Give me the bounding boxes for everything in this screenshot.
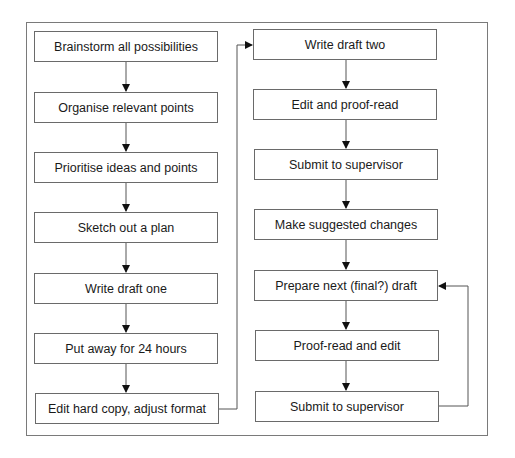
step-make-changes: Make suggested changes	[254, 209, 438, 240]
step-label: Put away for 24 hours	[65, 342, 187, 356]
step-label: Prioritise ideas and points	[54, 161, 197, 175]
step-sketch-plan: Sketch out a plan	[34, 212, 218, 243]
step-submit-supervisor-1: Submit to supervisor	[254, 149, 438, 180]
step-brainstorm: Brainstorm all possibilities	[34, 31, 218, 62]
step-label: Write draft two	[305, 38, 385, 52]
step-edit-proof-read: Edit and proof-read	[253, 89, 437, 120]
step-label: Prepare next (final?) draft	[275, 279, 417, 293]
step-label: Make suggested changes	[275, 218, 417, 232]
arrow-L7-R1	[218, 45, 252, 409]
step-edit-hard-copy: Edit hard copy, adjust format	[35, 393, 219, 424]
step-label: Edit and proof-read	[291, 98, 398, 112]
step-prioritise: Prioritise ideas and points	[34, 152, 218, 183]
step-put-away: Put away for 24 hours	[34, 333, 218, 364]
step-prepare-next-draft: Prepare next (final?) draft	[254, 270, 438, 301]
step-label: Brainstorm all possibilities	[54, 40, 198, 54]
step-label: Edit hard copy, adjust format	[48, 402, 206, 416]
step-write-draft-one: Write draft one	[34, 273, 218, 304]
step-label: Sketch out a plan	[78, 221, 175, 235]
step-proof-read-edit: Proof-read and edit	[255, 330, 439, 361]
step-label: Organise relevant points	[58, 101, 194, 115]
step-label: Proof-read and edit	[293, 339, 400, 353]
step-label: Write draft one	[85, 282, 167, 296]
step-label: Submit to supervisor	[290, 400, 404, 414]
step-submit-supervisor-2: Submit to supervisor	[255, 391, 439, 422]
step-organise: Organise relevant points	[34, 92, 218, 123]
step-label: Submit to supervisor	[289, 158, 403, 172]
step-write-draft-two: Write draft two	[253, 29, 437, 60]
arrow-R7-R5-loop	[438, 286, 468, 406]
